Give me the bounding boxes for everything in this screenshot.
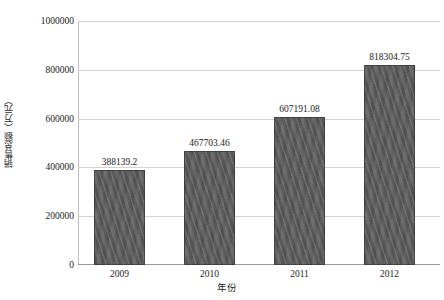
x-tick-label: 2012: [354, 268, 425, 280]
bar-chart: 销售总额（万元） 1000000 800000 600000 400000 20…: [0, 0, 444, 300]
bar-series: 388139.2 467703.46 607191.08 818304.75: [78, 21, 440, 265]
bar-value-label: 388139.2: [70, 157, 169, 168]
bar-group-2009: 388139.2: [94, 21, 145, 265]
bar-value-label: 607191.08: [250, 104, 349, 115]
y-tick-label: 800000: [8, 65, 74, 75]
y-tick-label: 0: [8, 260, 74, 270]
bar[interactable]: [364, 65, 415, 265]
bar-value-label: 818304.75: [340, 52, 439, 63]
bar[interactable]: [184, 151, 235, 265]
bar-value-label: 467703.46: [160, 138, 259, 149]
x-tick-label: 2010: [174, 268, 245, 280]
chart-title: [0, 0, 444, 2]
y-tick-label: 200000: [8, 211, 74, 221]
y-tick-label: 1000000: [8, 16, 74, 26]
bar[interactable]: [274, 117, 325, 265]
x-axis-tick-labels: 2009 2010 2011 2012: [78, 268, 440, 282]
bar[interactable]: [94, 170, 145, 265]
x-axis-title-text: 年份: [207, 283, 237, 293]
y-tick-label: 400000: [8, 162, 74, 172]
bar-group-2012: 818304.75: [364, 21, 415, 265]
bar-group-2011: 607191.08: [274, 21, 325, 265]
x-tick-label: 2011: [264, 268, 335, 280]
bar-group-2010: 467703.46: [184, 21, 235, 265]
x-axis-title: 年份: [0, 282, 444, 294]
y-tick-label: 600000: [8, 114, 74, 124]
x-tick-label: 2009: [84, 268, 155, 280]
